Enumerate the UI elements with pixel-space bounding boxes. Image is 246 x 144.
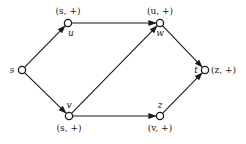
node-name-w: w (156, 28, 164, 38)
node-name-s: s (10, 65, 15, 75)
node-label-z: (v, +) (148, 123, 172, 133)
node-label-v: (s, +) (57, 123, 82, 133)
node-name-z: z (157, 100, 163, 110)
node-name-v: v (66, 100, 71, 110)
node-u (64, 19, 71, 26)
flow-network-diagram: su(s, +)w(u, +)v(s, +)z(v, +)t(z, +) (0, 0, 246, 144)
node-w (156, 19, 163, 26)
node-label-u: (s, +) (56, 6, 81, 16)
edge-s-to-v (25, 73, 66, 114)
node-name-u: u (68, 28, 74, 38)
node-z (156, 112, 163, 119)
edge-s-to-u (25, 26, 66, 67)
node-label-t: (z, +) (211, 65, 236, 75)
edge-z-to-t (163, 73, 203, 113)
node-name-t: t (194, 65, 198, 75)
node-t (201, 66, 208, 73)
node-label-w: (u, +) (147, 6, 173, 16)
edge-v-to-w (72, 26, 158, 113)
edge-w-to-t (162, 26, 202, 67)
node-v (65, 112, 72, 119)
node-s (18, 66, 25, 73)
